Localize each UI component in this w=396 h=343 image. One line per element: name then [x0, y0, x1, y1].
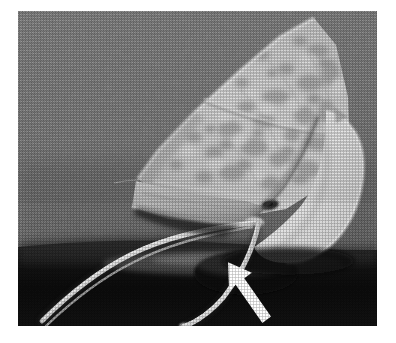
photo-content-group	[18, 11, 377, 326]
figure-root: Grayscale photograph of a pale mottled s…	[0, 0, 396, 343]
photograph-canvas	[18, 11, 377, 326]
photo-grain	[18, 11, 377, 326]
photograph-plate	[18, 11, 377, 326]
